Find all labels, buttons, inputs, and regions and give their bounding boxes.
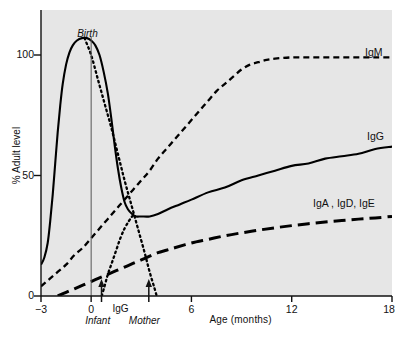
- series-path-igm: [41, 57, 392, 286]
- series-label-iga-igd-ige: IgA , IgD, IgE: [313, 197, 375, 209]
- x-tick-label-minus3: −3: [24, 303, 58, 315]
- y-tick-label-50: 50: [4, 169, 34, 181]
- series-label-igg: IgG: [367, 130, 384, 142]
- figure-container: % Adult level 0 50 100 −3 0 6 12 18 Age …: [0, 0, 405, 338]
- annotation-infant: Infant: [85, 315, 110, 326]
- infant-arrow-head: [98, 279, 104, 287]
- series-path-igg: [41, 38, 392, 265]
- series-path-maternal-igg: [84, 38, 158, 301]
- x-axis-label: Age (months): [209, 314, 271, 325]
- annotation-igg: IgG: [112, 303, 128, 314]
- series-path-iga-igd-ige: [58, 216, 392, 296]
- x-tick-label-18: 18: [372, 303, 405, 315]
- x-tick-label-12: 12: [275, 303, 309, 315]
- series-label-igm: IgM: [365, 46, 383, 58]
- annotation-mother: Mother: [129, 315, 160, 326]
- series-path-infant-igg: [100, 214, 134, 301]
- y-tick-label-100: 100: [4, 48, 34, 60]
- chart-svg: [0, 0, 405, 338]
- x-tick-label-6: 6: [174, 303, 208, 315]
- y-axis-label: % Adult level: [11, 116, 22, 196]
- y-tick-label-0: 0: [4, 289, 34, 301]
- annotation-birth: Birth: [77, 28, 98, 39]
- x-tick-label-0: 0: [74, 303, 108, 315]
